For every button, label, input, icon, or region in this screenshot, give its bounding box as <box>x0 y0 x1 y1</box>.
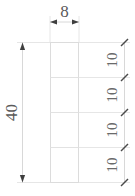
height-arrow-top-icon <box>20 43 25 51</box>
height-dimension-group <box>17 43 50 183</box>
width-arrow-left-icon <box>50 19 57 24</box>
bar-outline-group <box>51 43 79 183</box>
height-dimension-label: 40 <box>2 104 21 121</box>
technical-drawing-canvas: 8 40 10 10 10 10 <box>0 0 135 196</box>
segment-dimension-label-3: 10 <box>104 123 120 138</box>
width-dimension-label: 8 <box>60 2 69 21</box>
height-arrow-bottom-icon <box>20 175 25 183</box>
segment-dimension-label-2: 10 <box>104 88 120 103</box>
width-arrow-right-icon <box>72 19 79 24</box>
segment-dimension-label-4: 10 <box>104 158 120 173</box>
segment-dimension-label-1: 10 <box>104 53 120 68</box>
